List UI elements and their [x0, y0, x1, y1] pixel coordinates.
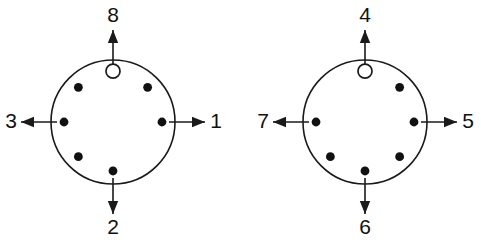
port-label-1: 1	[210, 109, 222, 132]
dot-s	[361, 167, 370, 176]
dot-e	[158, 118, 167, 127]
left-circle-diagram: 8123	[5, 3, 222, 238]
dot-ne	[395, 83, 404, 92]
right-circle-diagram: 4567	[257, 3, 474, 238]
port-label-2: 2	[107, 215, 119, 238]
port-label-4: 4	[359, 3, 371, 26]
arrow-head	[360, 30, 370, 43]
port-label-3: 3	[5, 109, 17, 132]
port-diagram-canvas: 81234567	[0, 0, 481, 246]
arrow-head	[108, 30, 118, 43]
arrow-south: 2	[107, 178, 119, 238]
arrow-north: 4	[359, 3, 371, 66]
arrow-head	[360, 201, 370, 214]
arrow-east: 5	[421, 109, 474, 132]
dot-e	[410, 118, 419, 127]
arrow-head	[108, 201, 118, 214]
arrow-west: 7	[257, 109, 309, 132]
dot-w	[60, 118, 69, 127]
arrow-head	[444, 117, 457, 127]
dot-sw	[326, 152, 335, 161]
dot-w	[312, 118, 321, 127]
dot-se	[395, 152, 404, 161]
arrow-head	[192, 117, 205, 127]
dot-ne	[143, 83, 152, 92]
arrow-north: 8	[107, 3, 119, 66]
reference-marker	[358, 64, 372, 78]
port-label-5: 5	[462, 109, 474, 132]
reference-marker	[106, 64, 120, 78]
figure-root: 81234567	[0, 0, 481, 246]
arrow-west: 3	[5, 109, 57, 132]
arrow-head	[273, 117, 286, 127]
dot-sw	[74, 152, 83, 161]
arrow-east: 1	[169, 109, 222, 132]
arrow-head	[21, 117, 34, 127]
port-label-7: 7	[257, 109, 269, 132]
dot-s	[109, 167, 118, 176]
arrow-south: 6	[359, 178, 371, 238]
dot-nw	[74, 83, 83, 92]
port-label-8: 8	[107, 3, 119, 26]
port-label-6: 6	[359, 215, 371, 238]
